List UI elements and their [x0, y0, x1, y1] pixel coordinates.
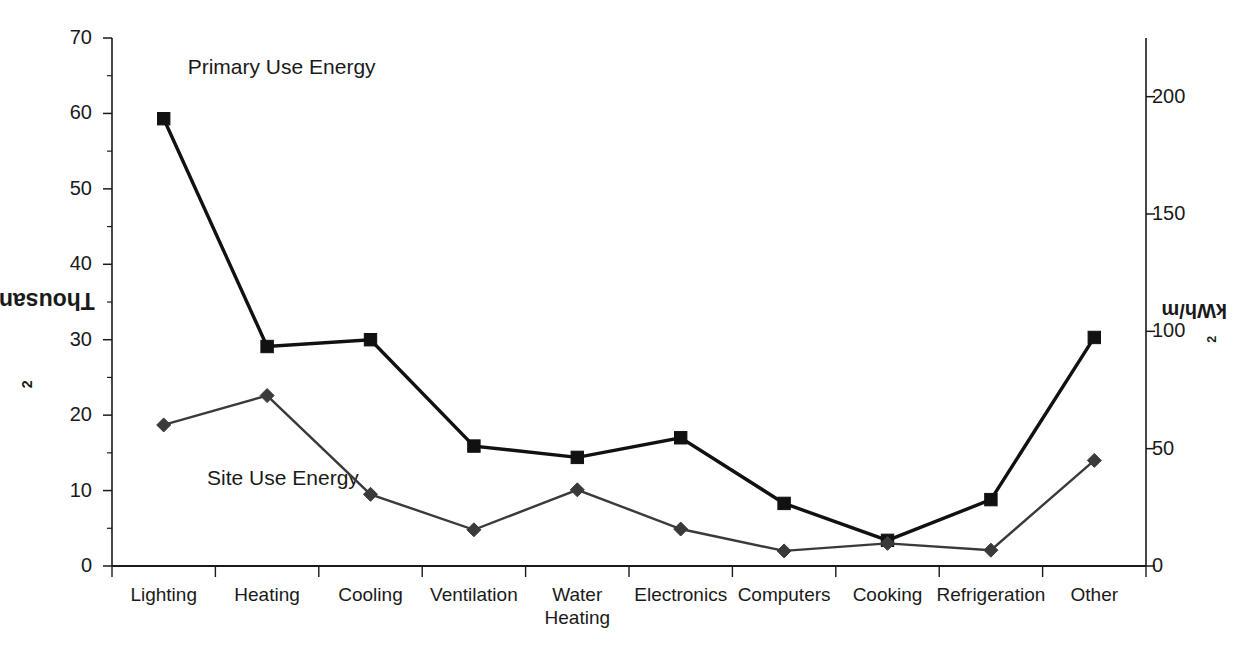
data-point-site-use-energy: [467, 523, 481, 537]
data-point-primary-use-energy: [158, 113, 170, 125]
data-point-primary-use-energy: [778, 497, 790, 509]
plot-area: [0, 0, 1240, 667]
energy-use-line-chart: Thousand Btu/ft2 kWh/m2 706050403020100 …: [0, 0, 1240, 667]
data-point-site-use-energy: [570, 483, 584, 497]
series-line-primary-use-energy: [164, 119, 1095, 541]
data-point-site-use-energy: [157, 418, 171, 432]
data-point-primary-use-energy: [261, 340, 273, 352]
data-point-primary-use-energy: [985, 493, 997, 505]
data-point-primary-use-energy: [468, 440, 480, 452]
data-point-primary-use-energy: [675, 432, 687, 444]
series-line-site-use-energy: [164, 396, 1095, 551]
data-point-site-use-energy: [674, 522, 688, 536]
data-point-primary-use-energy: [571, 451, 583, 463]
data-point-site-use-energy: [777, 544, 791, 558]
data-point-primary-use-energy: [1088, 331, 1100, 343]
data-point-primary-use-energy: [364, 334, 376, 346]
